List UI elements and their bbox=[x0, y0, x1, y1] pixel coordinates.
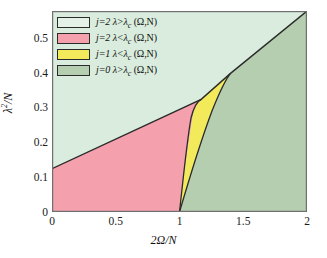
y-tick-0.2: 0.2 bbox=[18, 137, 48, 149]
legend-swatch-mint bbox=[57, 17, 90, 28]
y-axis-title: λ2/N bbox=[0, 79, 16, 127]
x-tick-1.5: 1.5 bbox=[223, 216, 263, 228]
legend-label-j2-lt: j=2 λ<λc (Ω,N) bbox=[96, 32, 157, 46]
y-axis-title-lambda: λ bbox=[1, 108, 15, 113]
x-tick-1: 1 bbox=[160, 216, 200, 228]
legend-swatch-graygreen bbox=[57, 65, 90, 76]
y-axis-title-suffix: /N bbox=[1, 93, 15, 104]
x-tick-0: 0 bbox=[32, 216, 72, 228]
legend-swatch-pink bbox=[57, 33, 90, 44]
legend-item-j0-gt: j=0 λ>λc (Ω,N) bbox=[57, 63, 157, 78]
y-tick-0.4: 0.4 bbox=[18, 68, 48, 80]
x-tick-2: 2 bbox=[287, 216, 327, 228]
x-axis-ticks: 0 0.5 1 1.5 2 bbox=[0, 216, 327, 234]
legend-label-j1-lt: j=1 λ<λc (Ω,N) bbox=[96, 48, 157, 62]
legend-label-j0-gt: j=0 λ>λc (Ω,N) bbox=[96, 64, 157, 78]
legend-item-j1-lt: j=1 λ<λc (Ω,N) bbox=[57, 47, 157, 62]
y-tick-0.1: 0.1 bbox=[18, 172, 48, 184]
y-tick-0.3: 0.3 bbox=[18, 102, 48, 114]
legend: j=2 λ>λc (Ω,N) j=2 λ<λc (Ω,N) j=1 λ<λc bbox=[57, 15, 157, 78]
y-axis-title-exponent: 2 bbox=[0, 104, 9, 108]
legend-item-j2-lt: j=2 λ<λc (Ω,N) bbox=[57, 31, 157, 46]
figure-root: j=2 λ>λc (Ω,N) j=2 λ<λc (Ω,N) j=1 λ<λc bbox=[0, 0, 327, 258]
y-tick-0.5: 0.5 bbox=[18, 33, 48, 45]
legend-swatch-yellow bbox=[57, 49, 90, 60]
x-tick-0.5: 0.5 bbox=[96, 216, 136, 228]
plot-area: j=2 λ>λc (Ω,N) j=2 λ<λc (Ω,N) j=1 λ<λc bbox=[52, 11, 307, 212]
legend-label-j2-gt: j=2 λ>λc (Ω,N) bbox=[96, 16, 157, 30]
x-axis-title: 2Ω/N bbox=[0, 233, 327, 248]
legend-item-j2-gt: j=2 λ>λc (Ω,N) bbox=[57, 15, 157, 30]
